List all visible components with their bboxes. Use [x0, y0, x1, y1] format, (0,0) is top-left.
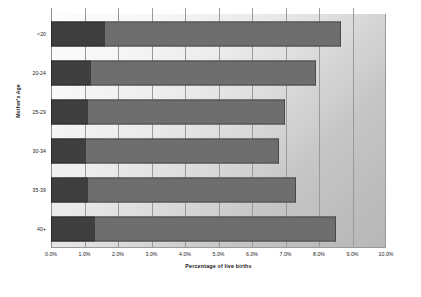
- x-axis-tick-label: 7.0%: [279, 251, 291, 257]
- x-axis-tick-label: 4.0%: [179, 251, 191, 257]
- x-axis-tick-label: 8.0%: [313, 251, 325, 257]
- x-axis-tick-label: 0.0%: [45, 251, 57, 257]
- y-axis-tick-label: <20: [37, 31, 46, 37]
- bar-row: [51, 138, 279, 163]
- bar-segment: [95, 216, 336, 241]
- bar-segment: [91, 60, 315, 85]
- bar-row: [51, 177, 296, 202]
- x-axis-tick-label: 9.0%: [346, 251, 358, 257]
- bar-segment: [88, 99, 286, 124]
- bar-row: [51, 21, 341, 46]
- bar-segment: [86, 138, 279, 163]
- x-axis-tick-label: 5.0%: [212, 251, 224, 257]
- bar-segment: [51, 21, 105, 46]
- x-axis-tick-label: 3.0%: [145, 251, 157, 257]
- x-axis-tick-label: 10.0%: [379, 251, 394, 257]
- y-axis-tick-label: 25-29: [32, 109, 46, 115]
- bar-segment: [51, 216, 95, 241]
- x-axis-tick-label: 6.0%: [246, 251, 258, 257]
- x-axis-tick-labels: 0.0%1.0%2.0%3.0%4.0%5.0%6.0%7.0%8.0%9.0%…: [51, 251, 386, 261]
- y-axis-tick-label: 30-34: [32, 148, 46, 154]
- bar-segment: [51, 138, 86, 163]
- x-axis-title: Percentage of live births: [51, 263, 386, 269]
- bar-segment: [51, 60, 91, 85]
- y-axis-tick-labels: <2020-2425-2930-3435-3940+: [6, 14, 49, 248]
- bar-segment: [51, 99, 88, 124]
- bar-row: [51, 216, 336, 241]
- bar-row: [51, 99, 285, 124]
- y-axis-tick-label: 35-39: [32, 187, 46, 193]
- bar-segment: [51, 177, 88, 202]
- bar-segment: [105, 21, 341, 46]
- y-axis-tick-label: 20-24: [32, 70, 46, 76]
- x-axis-tick-label: 2.0%: [112, 251, 124, 257]
- y-axis-tick-label: 40+: [37, 226, 46, 232]
- x-axis-tick-label: 1.0%: [78, 251, 90, 257]
- plot-area: [51, 14, 386, 248]
- bars-layer: [51, 14, 385, 247]
- bar-row: [51, 60, 316, 85]
- bar-chart: Mother's Age <2020-2425-2930-3435-3940+ …: [0, 0, 421, 297]
- bar-segment: [88, 177, 296, 202]
